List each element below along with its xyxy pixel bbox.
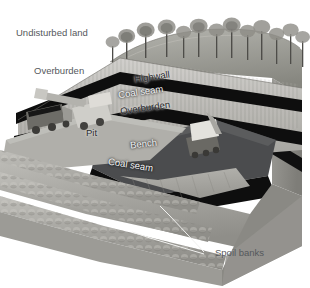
label-undisturbed-land: Undisturbed land [16, 28, 88, 38]
label-pit: Pit [86, 128, 97, 138]
mining-block-diagram: Undisturbed land Overburden Highwall Coa… [0, 0, 310, 288]
label-overburden-outer: Overburden [34, 66, 84, 76]
label-spoil-banks: Spoil banks [215, 248, 264, 258]
